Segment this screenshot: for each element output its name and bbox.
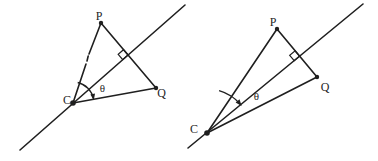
left-diagram: P C Q θ	[20, 5, 185, 150]
right-right-angle-mark	[290, 51, 300, 61]
left-segment-cq	[73, 88, 156, 103]
left-right-angle-mark	[118, 50, 128, 60]
geometry-figure: P C Q θ P C Q θ	[0, 0, 378, 161]
right-label-theta: θ	[254, 90, 259, 102]
figure-canvas: P C Q θ P C Q θ	[0, 0, 378, 161]
right-label-q: Q	[321, 80, 330, 94]
right-segment-cq	[207, 77, 317, 133]
right-label-c: C	[190, 122, 198, 136]
right-point-q-dot	[315, 75, 319, 79]
left-transversal-line	[20, 5, 185, 150]
right-diagram: P C Q θ	[188, 4, 363, 148]
left-label-theta: θ	[100, 82, 105, 94]
left-label-q: Q	[157, 86, 166, 100]
right-label-p: P	[270, 15, 277, 29]
right-point-c-dot	[204, 130, 210, 136]
right-segment-cp	[207, 29, 277, 133]
left-label-p: P	[96, 9, 103, 23]
left-segment-pq	[101, 23, 156, 88]
left-label-c: C	[63, 93, 71, 107]
left-point-c-dot	[70, 100, 76, 106]
